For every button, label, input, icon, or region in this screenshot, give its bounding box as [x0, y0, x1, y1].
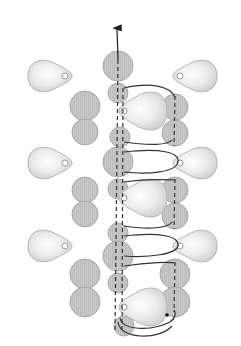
- round-bead: [72, 177, 98, 203]
- drop-bead-hole: [121, 108, 127, 114]
- round-bead: [110, 127, 130, 147]
- beading-diagram: [0, 0, 241, 346]
- round-bead: [70, 259, 100, 289]
- thread-end-knot: [165, 313, 169, 317]
- drop-bead-hole: [62, 73, 68, 79]
- round-bead: [72, 201, 98, 227]
- thread-center-column-2: [122, 88, 123, 330]
- round-bead: [108, 273, 128, 293]
- drop-bead-hole: [62, 160, 68, 166]
- center-drop-beads: [119, 92, 167, 326]
- drop-bead-hole: [177, 73, 183, 79]
- drop-bead-hole: [62, 243, 68, 249]
- round-bead: [72, 119, 98, 145]
- round-bead: [162, 120, 188, 146]
- drop-bead-hole: [121, 195, 127, 201]
- round-bead: [70, 91, 100, 121]
- round-bead: [70, 287, 100, 317]
- beading-diagram-canvas: [0, 0, 241, 346]
- round-bead: [108, 83, 128, 103]
